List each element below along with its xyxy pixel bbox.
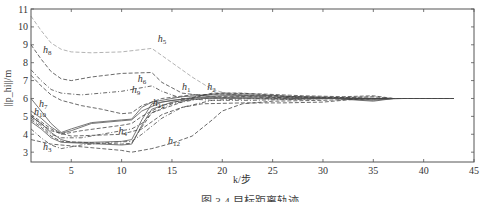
curve-label-h3: h3 [43,141,52,154]
x-tick-label: 20 [217,165,227,176]
x-tick-label: 25 [268,165,278,176]
series-line-h13 [31,99,454,146]
x-tick-label: 35 [368,165,378,176]
curves-layer [31,16,454,152]
y-tick-label: 3 [23,147,28,158]
x-tick-label: 10 [117,165,127,176]
y-axis-title: ||p_hi||/m [2,70,13,107]
plot-frame [31,9,474,162]
curve-label-h5: h5 [158,33,167,46]
y-tick-label: 4 [23,129,28,140]
y-tick-label: 8 [23,57,28,68]
curve-label-h6: h6 [138,73,147,86]
ticks-layer: 5101520253035404534567891011 [18,4,479,177]
x-tick-label: 45 [469,165,479,176]
y-tick-label: 11 [18,4,28,15]
series-line-h10 [31,96,454,134]
curve-label-h9: h9 [132,84,141,97]
y-tick-label: 5 [23,111,28,122]
y-tick-label: 6 [23,93,28,104]
curve-label-h4: h4 [119,125,128,138]
curve-label-h1: h1 [182,81,191,94]
curve-label-h7: h7 [39,98,48,111]
curve-label-h8: h8 [43,44,52,57]
series-line-h1 [31,93,454,144]
x-tick-label: 40 [419,165,429,176]
curve-label-h12: h12 [168,135,181,148]
series-line-h9 [31,75,454,114]
y-tick-label: 9 [23,39,28,50]
curve-label-h2: h2 [207,81,216,94]
x-tick-label: 15 [167,165,177,176]
y-tick-label: 10 [18,21,28,32]
x-axis-title: k/步 [233,174,251,185]
x-tick-label: 5 [69,165,74,176]
x-tick-label: 30 [318,165,328,176]
series-line-h5 [31,16,454,98]
figure-caption: 图 3-4 目标距离轨迹 [201,194,298,202]
y-tick-label: 7 [23,75,28,86]
series-line-h7 [31,95,454,133]
trajectory-chart: 5101520253035404534567891011 h5h8h6h9h7h… [0,0,480,202]
